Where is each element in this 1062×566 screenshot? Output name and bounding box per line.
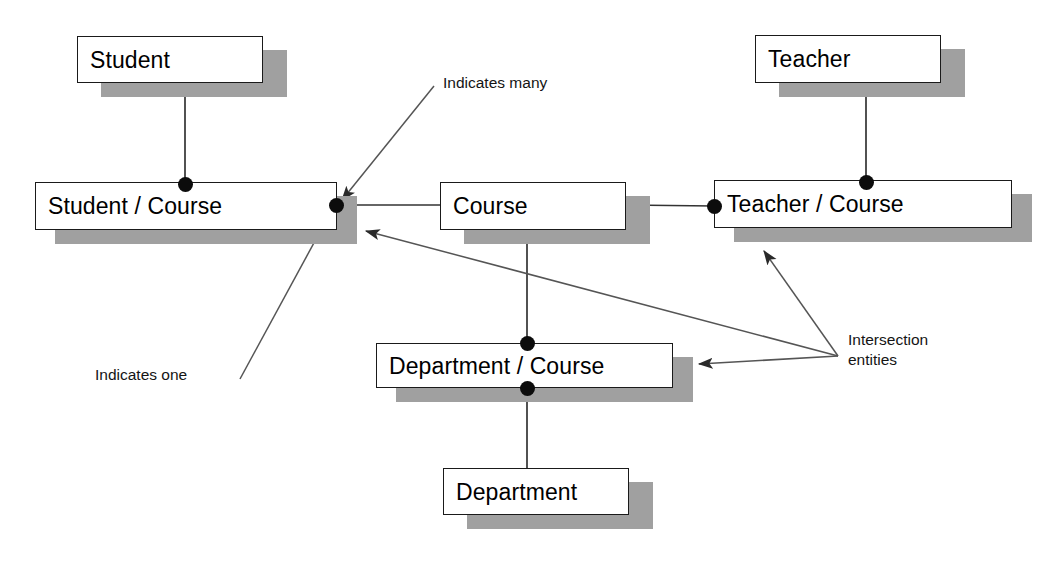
annotation-leader-to-teacher-course	[764, 251, 838, 356]
entity-label-course: Course	[453, 193, 528, 219]
annotation-leader-to-student-course	[366, 231, 838, 356]
cardinality-dot-teacher-course-left	[707, 199, 722, 214]
entity-label-student: Student	[90, 47, 170, 73]
cardinality-dot-department-course-bottom	[520, 381, 535, 396]
cardinality-dot-teacher-course-top	[859, 175, 874, 190]
diagram-canvas: StudentStudent / CourseCourseTeacherTeac…	[0, 0, 1062, 566]
entity-label-department: Department	[456, 479, 577, 505]
relationship-lines	[185, 83, 866, 468]
annotation-leader-indicates-many	[342, 86, 434, 200]
entity-label-student_course: Student / Course	[48, 193, 222, 219]
entity-label-teacher_course: Teacher / Course	[727, 191, 904, 217]
annotation-label-indicates-one: Indicates one	[95, 365, 187, 385]
entity-label-teacher: Teacher	[768, 46, 851, 72]
annotation-label-indicates-many: Indicates many	[443, 73, 547, 93]
annotation-leader-to-department-course	[699, 356, 838, 364]
cardinality-dot-student-course-right	[329, 198, 344, 213]
entity-label-department_course: Department / Course	[389, 353, 604, 379]
annotation-label-intersection-entities: Intersection entities	[848, 330, 928, 370]
entity-box-student[interactable]: Student	[77, 36, 263, 83]
entity-box-teacher[interactable]: Teacher	[755, 35, 941, 83]
entity-box-department[interactable]: Department	[443, 468, 629, 515]
cardinality-dot-student-course-top	[178, 177, 193, 192]
entity-box-course[interactable]: Course	[440, 182, 626, 230]
cardinality-dot-department-course-top	[520, 336, 535, 351]
